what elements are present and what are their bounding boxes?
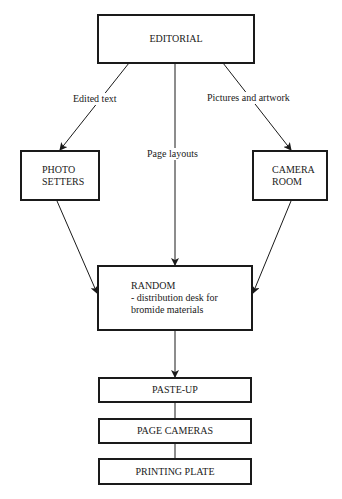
node-editorial: EDITORIAL [97, 14, 255, 64]
edge-label-edited-text: Edited text [72, 93, 118, 105]
node-camera-room-line2: ROOM [272, 176, 315, 188]
edge-editorial-to-camera-room [223, 63, 291, 150]
node-paste-up: PASTE-UP [98, 377, 252, 403]
node-photo-setters-line1: PHOTO [42, 164, 84, 176]
edge-camera-room-to-random [253, 201, 291, 293]
node-camera-room-line1: CAMERA [272, 164, 315, 176]
node-page-cameras: PAGE CAMERAS [98, 418, 252, 444]
node-paste-up-label: PASTE-UP [152, 384, 198, 396]
node-printing-plate-label: PRINTING PLATE [135, 466, 214, 478]
node-camera-room: CAMERA ROOM [252, 150, 328, 201]
node-random: RANDOM - distribution desk for bromide m… [97, 265, 253, 331]
edge-label-pictures-and-artwork: Pictures and artwork [206, 92, 291, 104]
edge-editorial-to-photo-setters [60, 63, 129, 150]
edge-label-page-layouts: Page layouts [146, 148, 199, 160]
node-random-desc-line1: - distribution desk for [131, 292, 218, 304]
node-photo-setters-line2: SETTERS [42, 176, 84, 188]
node-printing-plate: PRINTING PLATE [98, 458, 252, 485]
node-random-desc-line2: bromide materials [131, 304, 218, 316]
edge-photo-setters-to-random [57, 201, 97, 293]
node-photo-setters: PHOTO SETTERS [20, 150, 100, 201]
node-random-title: RANDOM [131, 280, 218, 292]
node-editorial-label: EDITORIAL [149, 33, 202, 45]
node-page-cameras-label: PAGE CAMERAS [137, 425, 213, 437]
